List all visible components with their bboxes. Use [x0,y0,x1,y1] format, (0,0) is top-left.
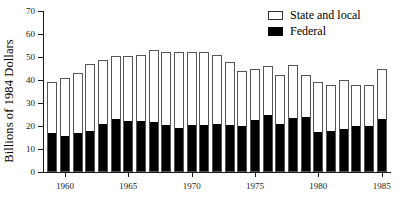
bar-segment-federal [251,120,259,171]
table-row [60,78,70,172]
bar-segment-federal [378,119,386,171]
bar-segment-federal [289,118,297,171]
table-row [149,50,159,172]
legend-label-federal: Federal [290,25,326,38]
y-tick-0 [38,172,43,173]
bar-segment-federal [238,126,246,171]
bar-segment-federal [314,132,322,171]
table-row [364,85,374,172]
y-tick-40 [38,80,43,81]
x-tick-1975 [255,173,256,177]
y-tick-60 [38,34,43,35]
bar-segment-federal [264,115,272,172]
table-row [377,69,387,173]
x-tick-label-1965: 1965 [108,181,148,191]
bar-segment-federal [137,121,145,171]
legend-item-federal: Federal [268,24,396,39]
y-tick-label-70: 70 [5,7,35,16]
legend-swatch-federal [268,27,283,36]
table-row [47,82,57,172]
x-tick-label-1975: 1975 [235,181,275,191]
table-row [111,56,121,172]
x-tick-label-1985: 1985 [362,181,400,191]
chart-legend: State and local Federal [268,8,396,40]
bar-segment-federal [48,133,56,171]
y-tick-label-0: 0 [5,168,35,177]
x-tick-1970 [192,173,193,177]
bar-segment-federal [226,125,234,171]
table-row [237,71,247,172]
x-tick-1985 [382,173,383,177]
bar-segment-federal [74,133,82,171]
bar-segment-federal [124,121,132,171]
y-tick-label-10: 10 [5,145,35,154]
x-tick-label-1960: 1960 [45,181,85,191]
bar-segment-federal [200,125,208,171]
table-row [301,75,311,172]
table-row [73,73,83,172]
y-tick-label-20: 20 [5,122,35,131]
x-tick-label-1980: 1980 [298,181,338,191]
bar-segment-federal [213,124,221,171]
y-tick-50 [38,57,43,58]
bar-segment-federal [150,122,158,171]
legend-swatch-state-and-local [268,11,283,20]
bar-segment-federal [175,128,183,171]
table-row [250,69,260,173]
bar-segment-federal [302,117,310,171]
table-row [136,55,146,172]
table-row [275,75,285,172]
table-row [161,52,171,172]
table-row [288,65,298,172]
table-row [98,60,108,172]
chart-figure: Billions of 1984 Dollars 196019651970197… [0,0,400,202]
table-row [225,62,235,172]
bar-segment-federal [276,124,284,171]
y-tick-10 [38,149,43,150]
y-tick-20 [38,126,43,127]
x-tick-1965 [128,173,129,177]
x-tick-1980 [318,173,319,177]
table-row [174,52,184,172]
y-tick-label-60: 60 [5,30,35,39]
bar-segment-federal [162,125,170,171]
bar-segment-federal [327,131,335,171]
bar-segment-federal [86,131,94,171]
bar-segment-federal [352,126,360,171]
table-row [85,64,95,172]
bar-segment-federal [99,124,107,171]
table-row [212,55,222,172]
legend-item-state-and-local: State and local [268,8,396,23]
table-row [326,85,336,172]
y-tick-label-30: 30 [5,99,35,108]
x-axis-line [43,172,391,173]
y-tick-label-40: 40 [5,76,35,85]
y-tick-70 [38,11,43,12]
x-tick-label-1970: 1970 [172,181,212,191]
y-tick-30 [38,103,43,104]
bar-segment-federal [365,126,373,171]
table-row [351,85,361,172]
bar-segment-federal [340,129,348,171]
table-row [187,52,197,172]
table-row [339,80,349,172]
x-tick-1960 [65,173,66,177]
table-row [263,66,273,172]
table-row [313,82,323,172]
bar-segment-federal [61,136,69,171]
y-tick-label-50: 50 [5,53,35,62]
y-axis-line [43,11,44,173]
bar-segment-federal [188,125,196,171]
table-row [199,52,209,172]
bar-segment-federal [112,119,120,171]
legend-label-state-and-local: State and local [290,9,361,22]
table-row [123,56,133,172]
